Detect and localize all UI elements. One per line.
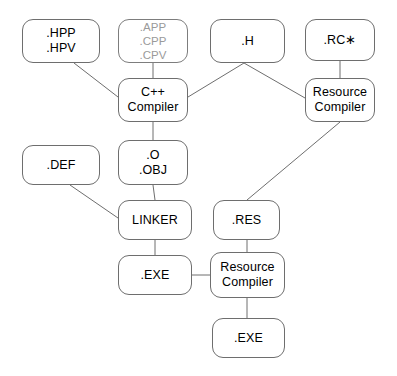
- node-cppcompiler[interactable]: C++Compiler: [118, 78, 188, 122]
- node-exe_mid[interactable]: .EXE: [118, 255, 192, 295]
- edge-h-to-cppcompiler: [188, 63, 244, 97]
- node-obj-label-line-2: .OBJ: [139, 163, 167, 178]
- node-obj[interactable]: .O.OBJ: [118, 140, 188, 185]
- node-sources[interactable]: .APP.CPP.CPV: [118, 19, 188, 63]
- edge-h-to-rescompiler_top: [244, 63, 305, 98]
- node-h[interactable]: .H: [210, 19, 285, 63]
- node-rescompiler_bottom-label-line-2: Compiler: [222, 275, 273, 290]
- node-exe_mid-label-line-1: .EXE: [141, 268, 170, 283]
- compilation-flow-diagram: .HPP.HPV.APP.CPP.CPV.H.RC∗C++CompilerRes…: [0, 0, 397, 376]
- node-def-label-line-1: .DEF: [47, 158, 76, 173]
- edge-def-to-linker: [70, 185, 118, 218]
- node-sources-label-line-3: .CPV: [139, 48, 166, 62]
- node-rc[interactable]: .RC∗: [305, 19, 375, 61]
- node-obj-label-line-1: .O: [146, 148, 159, 163]
- node-cppcompiler-label-line-1: C++: [141, 85, 165, 100]
- node-def[interactable]: .DEF: [22, 145, 100, 185]
- node-sources-label-line-1: .APP: [140, 20, 167, 34]
- node-rescompiler_top[interactable]: ResourceCompiler: [305, 78, 375, 122]
- node-rescompiler_top-label-line-1: Resource: [313, 85, 367, 100]
- node-res[interactable]: .RES: [213, 200, 280, 240]
- node-exe_final-label-line-1: .EXE: [234, 331, 263, 346]
- node-hpp-label-line-2: .HPV: [46, 41, 76, 56]
- node-rescompiler_bottom-label-line-1: Resource: [220, 260, 274, 275]
- node-linker[interactable]: LINKER: [118, 200, 192, 240]
- node-rc-label-line-1: .RC∗: [324, 33, 357, 48]
- node-hpp-label-line-1: .HPP: [46, 26, 76, 41]
- edge-obj-to-linker: [153, 185, 155, 200]
- edge-hpp-to-cppcompiler: [74, 63, 118, 97]
- node-h-label-line-1: .H: [241, 34, 254, 49]
- node-linker-label-line-1: LINKER: [132, 213, 178, 228]
- node-res-label-line-1: .RES: [232, 213, 262, 228]
- node-rescompiler_top-label-line-2: Compiler: [315, 100, 366, 115]
- node-sources-label-line-2: .CPP: [139, 34, 166, 48]
- node-exe_final[interactable]: .EXE: [212, 318, 285, 358]
- node-rescompiler_bottom[interactable]: ResourceCompiler: [210, 252, 285, 298]
- node-cppcompiler-label-line-2: Compiler: [128, 100, 179, 115]
- edge-rescompiler_top-to-res: [247, 122, 340, 200]
- node-hpp[interactable]: .HPP.HPV: [22, 19, 100, 63]
